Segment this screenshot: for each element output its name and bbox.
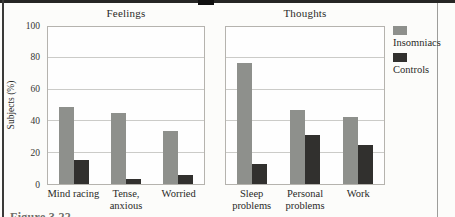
- chart-panel-feelings: [47, 26, 205, 185]
- x-category-label: Tense, anxious: [100, 188, 153, 212]
- insomniacs-swatch-icon: [393, 26, 407, 35]
- scan-edge-top: [0, 0, 455, 3]
- x-category-label: Worried: [152, 188, 205, 212]
- x-axis-labels-thoughts: Sleep problemsPersonal problemsWork: [225, 188, 385, 212]
- y-tick-label: 0: [35, 180, 40, 190]
- scan-edge-top-blob: [198, 0, 214, 5]
- bar-controls: [252, 164, 267, 184]
- y-tick-label: 40: [31, 117, 41, 127]
- bar-group: [290, 27, 320, 184]
- bar-group: [111, 27, 141, 184]
- legend-entry-controls: Controls: [393, 53, 441, 76]
- y-tick-label: 20: [31, 148, 41, 158]
- y-tick-label: 80: [31, 53, 41, 63]
- x-category-label: Personal problems: [278, 188, 331, 212]
- controls-swatch-icon: [393, 53, 407, 62]
- bar-insomniacs: [343, 117, 358, 185]
- bar-group: [343, 27, 373, 184]
- scan-edge-left: [2, 0, 4, 217]
- legend-entry-insomniacs: Insomniacs: [393, 26, 441, 49]
- x-category-label: Mind racing: [47, 188, 100, 212]
- bar-controls: [126, 179, 141, 184]
- panel-title-thoughts: Thoughts: [225, 7, 385, 19]
- y-axis-ticks: 020406080100: [12, 26, 40, 185]
- figure-caption-fragment: Figure 3.22: [10, 210, 71, 217]
- y-tick-label: 100: [26, 21, 40, 31]
- y-tick-label: 60: [31, 85, 41, 95]
- bar-controls: [305, 135, 320, 184]
- x-category-label: Work: [332, 188, 385, 212]
- bar-group: [59, 27, 89, 184]
- bar-insomniacs: [111, 113, 126, 184]
- bar-insomniacs: [163, 131, 178, 184]
- legend-label-insomniacs: Insomniacs: [393, 37, 441, 49]
- bar-group: [163, 27, 193, 184]
- panel-title-feelings: Feelings: [47, 7, 205, 19]
- bar-insomniacs: [59, 107, 74, 184]
- x-axis-labels-feelings: Mind racingTense, anxiousWorried: [47, 188, 205, 212]
- bar-group: [237, 27, 267, 184]
- x-category-label: Sleep problems: [225, 188, 278, 212]
- bar-controls: [358, 145, 373, 184]
- bar-insomniacs: [290, 110, 305, 184]
- chart-legend: Insomniacs Controls: [393, 26, 441, 79]
- bar-insomniacs: [237, 63, 252, 184]
- chart-panel-thoughts: [225, 26, 385, 185]
- bar-controls: [178, 175, 193, 184]
- legend-label-controls: Controls: [393, 64, 441, 76]
- bar-controls: [74, 160, 89, 184]
